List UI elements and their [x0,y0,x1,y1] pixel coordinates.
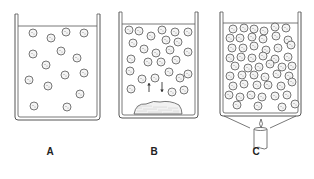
particle [271,23,279,31]
particle [288,62,296,70]
particle [29,50,37,58]
particle [63,103,71,111]
particle [76,90,84,98]
particle [255,63,263,71]
particle [127,85,135,93]
particle [278,103,286,111]
burner [224,116,296,149]
particle [172,56,180,64]
particle [174,38,182,46]
particle [274,44,282,52]
particle [171,28,179,36]
particle [238,71,246,79]
particle [184,48,192,56]
particle [291,100,299,108]
particle [225,91,233,99]
particle [162,36,170,44]
particle [80,69,88,77]
particle [231,62,239,70]
particle [226,54,234,62]
particle [239,44,247,52]
beaker-outer-wall [15,14,100,120]
particle [165,68,173,76]
candle-top [254,128,267,131]
particle [30,102,38,110]
panel-label-a: A [40,146,60,157]
particle [247,91,255,99]
particle [140,45,148,53]
particle [151,74,159,82]
particle [288,78,296,86]
particle [254,102,262,110]
particle [259,35,267,43]
particle [158,26,166,34]
particle [176,74,184,82]
panel-label-b: B [144,146,164,157]
particle [277,82,285,90]
particle [144,58,152,66]
particle [166,46,174,54]
particle [266,60,274,68]
particle [80,29,88,37]
particle [233,101,241,109]
particle [253,81,261,89]
panel-b [119,12,198,118]
particle [138,75,146,83]
particle [62,28,70,36]
particle [240,24,248,32]
particle [284,53,292,61]
particle [240,80,248,88]
particle [44,82,52,90]
particle [168,88,176,96]
arrow-up-icon [147,83,151,92]
particle [229,25,237,33]
particle [236,93,244,101]
panel-c [220,12,301,149]
particle [157,58,165,66]
particle [250,25,258,33]
particle [61,71,69,79]
particle [264,81,272,89]
particle [129,39,137,47]
particle [184,70,192,78]
particle [248,54,256,62]
solid-crystal-pile [134,101,182,114]
flame-icon [260,119,263,128]
diagram-figure: A B C [0,0,314,179]
particle [236,34,244,42]
particle [228,44,236,52]
particle [250,42,258,50]
particle [180,86,188,94]
particle [57,47,65,55]
particle [125,26,133,34]
particle [258,93,266,101]
particle [260,27,268,35]
particle [250,71,258,79]
particle [278,63,286,71]
particle [127,55,135,63]
arrow-down-icon [160,82,164,92]
particle [42,61,50,69]
particle [25,76,33,84]
particle [152,49,160,57]
particle [29,29,37,37]
particle [73,54,81,62]
particle [283,91,291,99]
particle [271,92,279,100]
particle [261,73,269,81]
panel-a [15,14,100,120]
particle [229,82,237,90]
particle [272,32,280,40]
particle [126,67,134,75]
particle [248,33,256,41]
particle [147,32,155,40]
particle [226,72,234,80]
particle [47,34,55,42]
particle [259,52,267,60]
panel-label-c: C [246,146,266,157]
particle [244,64,252,72]
particle [226,34,234,42]
particle [184,28,192,36]
particle [135,27,143,35]
particle [237,53,245,61]
